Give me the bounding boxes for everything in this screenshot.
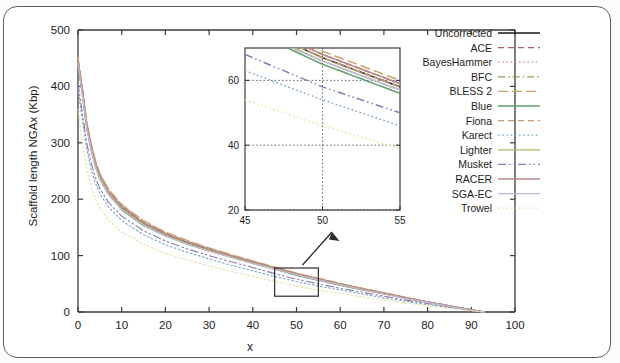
scaffold-length-chart: 01020304050607080901000100200300400500 4… (0, 0, 620, 363)
inset-x-tick-label: 45 (239, 215, 251, 226)
y-axis-label: Scaffold length NGAx (Kbp) (27, 61, 39, 251)
x-tick-label: 20 (159, 319, 172, 331)
x-axis-label: x (0, 340, 500, 354)
inset-pointer-arrow (303, 232, 333, 265)
inset-x-tick-label: 55 (394, 215, 406, 226)
x-tick-label: 40 (246, 319, 259, 331)
y-tick-label: 0 (64, 306, 70, 318)
y-tick-label: 200 (51, 193, 70, 205)
inset-y-tick-label: 40 (228, 140, 240, 151)
legend-label-sga-ec: SGA-EC (452, 188, 493, 200)
legend-label-blue: Blue (471, 100, 492, 112)
legend-label-racer: RACER (455, 173, 492, 185)
legend-label-fiona: Fiona (466, 115, 492, 127)
inset-y-tick-label: 20 (228, 205, 240, 216)
y-tick-label: 300 (51, 137, 70, 149)
x-tick-label: 30 (203, 319, 216, 331)
legend-label-ace: ACE (470, 42, 492, 54)
x-tick-label: 90 (465, 319, 478, 331)
figure-container: 01020304050607080901000100200300400500 4… (0, 0, 620, 363)
y-tick-label: 500 (51, 24, 70, 36)
x-tick-label: 60 (334, 319, 347, 331)
x-tick-label: 50 (290, 319, 303, 331)
x-tick-label: 100 (505, 319, 524, 331)
legend-label-musket: Musket (458, 158, 492, 170)
x-tick-label: 10 (115, 319, 128, 331)
legend-label-bfc: BFC (471, 71, 492, 83)
legend-label-lighter: Lighter (460, 144, 493, 156)
inset-y-tick-label: 60 (228, 75, 240, 86)
chart-legend: UncorrectedACEBayesHammerBFCBLESS 2BlueF… (423, 27, 540, 214)
x-tick-label: 80 (421, 319, 434, 331)
inset-plot: 455055204060 (228, 16, 406, 226)
y-tick-label: 400 (51, 80, 70, 92)
y-tick-label: 100 (51, 250, 70, 262)
legend-label-trowel: Trowel (461, 202, 492, 214)
legend-label-bayeshammer: BayesHammer (423, 56, 493, 68)
legend-label-bless-2: BLESS 2 (449, 85, 492, 97)
legend-label-karect: Karect (462, 129, 492, 141)
x-tick-label: 0 (75, 319, 81, 331)
legend-label-uncorrected: Uncorrected (435, 27, 492, 39)
x-tick-label: 70 (378, 319, 391, 331)
inset-x-tick-label: 50 (317, 215, 329, 226)
